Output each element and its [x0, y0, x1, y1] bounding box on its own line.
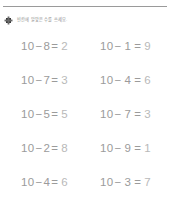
equals-sign: = [133, 143, 142, 155]
subtrahend: 5 [43, 109, 50, 121]
minus-sign: − [34, 109, 43, 121]
answer-value[interactable]: 6 [142, 75, 151, 87]
problem-item[interactable]: 10 − 7 = 3 [0, 75, 85, 87]
answer-value[interactable]: 7 [142, 177, 151, 189]
answer-value[interactable]: 1 [142, 143, 151, 155]
header-divider [3, 6, 167, 7]
subtrahend: 1 [124, 41, 131, 53]
minuend: 10 [100, 143, 113, 155]
answer-value[interactable]: 5 [59, 109, 68, 121]
minus-sign: − [113, 177, 122, 189]
equals-sign: = [133, 75, 142, 87]
answer-value[interactable]: 9 [142, 41, 151, 53]
problem-item[interactable]: 10 − 8 = 2 [0, 41, 85, 53]
answer-value[interactable]: 8 [59, 143, 68, 155]
minus-sign: − [113, 143, 122, 155]
problem-item[interactable]: 10 − 5 = 5 [0, 109, 85, 121]
problem-row: 10 − 7 = 3 10 − 4 = 6 [0, 64, 170, 98]
equals-sign: = [133, 109, 142, 121]
minus-sign: − [34, 177, 43, 189]
minus-sign: − [34, 143, 43, 155]
answer-value[interactable]: 2 [59, 41, 68, 53]
minus-sign: − [34, 41, 43, 53]
problem-item[interactable]: 10 − 7 = 3 [85, 109, 170, 121]
minuend: 10 [100, 75, 113, 87]
subtrahend: 4 [124, 75, 131, 87]
subtrahend: 4 [43, 177, 50, 189]
answer-value[interactable]: 6 [59, 177, 68, 189]
problem-item[interactable]: 10 − 4 = 6 [0, 177, 85, 189]
problem-item[interactable]: 10 − 2 = 8 [0, 143, 85, 155]
problem-item[interactable]: 10 − 9 = 1 [85, 143, 170, 155]
subtrahend: 3 [124, 177, 131, 189]
minuend: 10 [21, 109, 34, 121]
subtrahend: 7 [124, 109, 131, 121]
worksheet-page: 빈칸에 알맞은 수를 쓰세요. 10 − 8 = 2 10 − 1 = 9 [0, 0, 170, 222]
problem-item[interactable]: 10 − 3 = 7 [85, 177, 170, 189]
subtrahend: 8 [43, 41, 50, 53]
equals-sign: = [50, 143, 59, 155]
minus-sign: − [113, 41, 122, 53]
minus-sign: − [113, 109, 122, 121]
equals-sign: = [50, 109, 59, 121]
answer-value[interactable]: 3 [59, 75, 68, 87]
equals-sign: = [50, 177, 59, 189]
minuend: 10 [21, 177, 34, 189]
minuend: 10 [100, 177, 113, 189]
problem-item[interactable]: 10 − 4 = 6 [85, 75, 170, 87]
dark-square-bullet-icon [4, 16, 13, 25]
subtrahend: 7 [43, 75, 50, 87]
minuend: 10 [21, 143, 34, 155]
answer-value[interactable]: 3 [142, 109, 151, 121]
problem-row: 10 − 8 = 2 10 − 1 = 9 [0, 30, 170, 64]
subtrahend: 2 [43, 143, 50, 155]
problem-row: 10 − 4 = 6 10 − 3 = 7 [0, 166, 170, 200]
equals-sign: = [50, 75, 59, 87]
subtrahend: 9 [124, 143, 131, 155]
minuend: 10 [21, 41, 34, 53]
problem-row: 10 − 5 = 5 10 − 7 = 3 [0, 98, 170, 132]
problem-item[interactable]: 10 − 1 = 9 [85, 41, 170, 53]
instruction-row: 빈칸에 알맞은 수를 쓰세요. [4, 14, 67, 27]
minus-sign: − [34, 75, 43, 87]
equals-sign: = [50, 41, 59, 53]
problem-grid: 10 − 8 = 2 10 − 1 = 9 10 − 7 = [0, 30, 170, 200]
equals-sign: = [133, 177, 142, 189]
minuend: 10 [100, 109, 113, 121]
instruction-text: 빈칸에 알맞은 수를 쓰세요. [17, 18, 67, 22]
problem-row: 10 − 2 = 8 10 − 9 = 1 [0, 132, 170, 166]
minuend: 10 [100, 41, 113, 53]
minus-sign: − [113, 75, 122, 87]
minuend: 10 [21, 75, 34, 87]
equals-sign: = [133, 41, 142, 53]
